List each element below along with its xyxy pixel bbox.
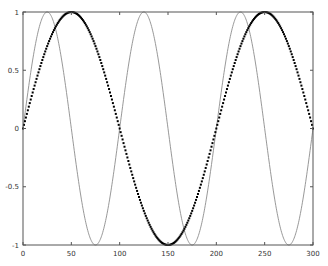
y-tick-label: 1 [15, 9, 19, 17]
sine-wave-chart: 050100150200250300 -1-0.500.51 [0, 0, 328, 266]
y-axis: -1-0.500.51 [5, 9, 313, 250]
x-tick-label: 200 [210, 250, 223, 258]
x-axis: 050100150200250300 [21, 12, 320, 258]
x-tick-label: 100 [113, 250, 126, 258]
series-line-0 [23, 12, 313, 245]
x-tick-label: 0 [21, 250, 25, 258]
y-tick-label: 0.5 [8, 67, 19, 75]
x-tick-label: 250 [258, 250, 271, 258]
x-tick-label: 150 [161, 250, 174, 258]
y-tick-label: -1 [12, 242, 19, 250]
y-tick-label: 0 [15, 125, 19, 133]
plot-series [22, 11, 314, 246]
x-tick-label: 300 [306, 250, 319, 258]
y-tick-label: -0.5 [5, 183, 19, 191]
x-tick-label: 50 [67, 250, 76, 258]
